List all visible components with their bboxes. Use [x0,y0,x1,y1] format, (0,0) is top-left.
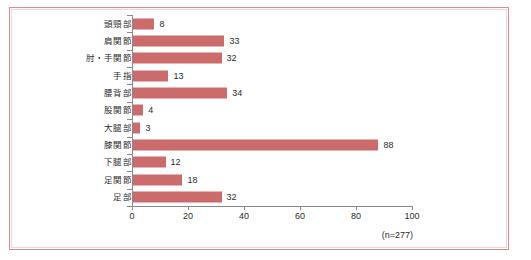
y-axis-tick [127,189,132,190]
category-label: 肘・手関節 [86,54,133,63]
y-axis-tick [127,119,132,120]
x-axis-tick-label: 60 [295,212,305,221]
category-label: 肩関節 [104,37,132,46]
chart-row: 足部 32 [0,189,531,206]
category-label: 下腿部 [104,158,132,167]
chart-row: 股関節 4 [0,102,531,119]
y-axis-tick [127,50,132,51]
y-axis-tick [127,154,132,155]
category-label: 大腿部 [104,124,132,133]
sample-size-annotation: (n=277) [0,231,413,240]
x-axis-tick [188,206,189,210]
chart-row: 膝関節 88 [0,137,531,154]
bar [132,70,168,81]
bar-value-label: 13 [173,71,183,80]
x-axis-tick [300,206,301,210]
bar-value-label: 32 [227,54,237,63]
category-label: 手指 [113,72,132,81]
bar-value-label: 18 [187,175,197,184]
y-axis-tick [127,15,132,16]
bar [132,105,143,116]
bar [132,53,222,64]
bar [132,140,378,151]
chart-row: 頭頸部 8 [0,15,531,32]
chart-row: 肘・手関節 32 [0,50,531,67]
chart-row: 肩関節 33 [0,32,531,49]
x-axis-tick-label: 80 [351,212,361,221]
bar-value-label: 12 [171,158,181,167]
x-axis-tick [412,206,413,210]
x-axis-tick [356,206,357,210]
bar-value-label: 88 [383,141,393,150]
bar-value-label: 3 [145,123,150,132]
bar [132,157,166,168]
chart-plot-area: 頭頸部 8 肩関節 33 肘・手関節 32 手指 13 腰背部 34 股関節 [0,0,531,260]
bar-value-label: 33 [229,37,239,46]
bar [132,18,154,29]
chart-row: 足関節 18 [0,171,531,188]
x-axis-line [132,206,413,207]
y-axis-tick [127,84,132,85]
chart-row: 腰背部 34 [0,84,531,101]
y-axis-tick [127,102,132,103]
category-label: 腰背部 [104,89,132,98]
bar [132,88,227,99]
bar-value-label: 4 [148,106,153,115]
category-label: 足部 [113,193,132,202]
y-axis-tick [127,137,132,138]
bar [132,174,182,185]
y-axis-line [132,15,133,206]
chart-row: 手指 13 [0,67,531,84]
bar [132,36,224,47]
category-label: 股関節 [104,106,132,115]
bar [132,192,222,203]
x-axis-tick-label: 100 [404,212,419,221]
x-axis-tick-label: 40 [239,212,249,221]
x-axis-tick-label: 20 [183,212,193,221]
bar-value-label: 32 [227,193,237,202]
y-axis-tick [127,171,132,172]
bar-value-label: 8 [159,19,164,28]
category-label: 足関節 [104,176,132,185]
x-axis-tick [244,206,245,210]
category-label: 頭頸部 [104,19,132,28]
category-label: 膝関節 [104,141,132,150]
bar-value-label: 34 [232,89,242,98]
chart-row: 下腿部 12 [0,154,531,171]
y-axis-tick [127,32,132,33]
y-axis-tick [127,67,132,68]
x-axis-tick-label: 0 [129,212,134,221]
chart-figure: 頭頸部 8 肩関節 33 肘・手関節 32 手指 13 腰背部 34 股関節 [0,0,531,260]
chart-row: 大腿部 3 [0,119,531,136]
x-axis-tick [132,206,133,210]
bar [132,122,140,133]
